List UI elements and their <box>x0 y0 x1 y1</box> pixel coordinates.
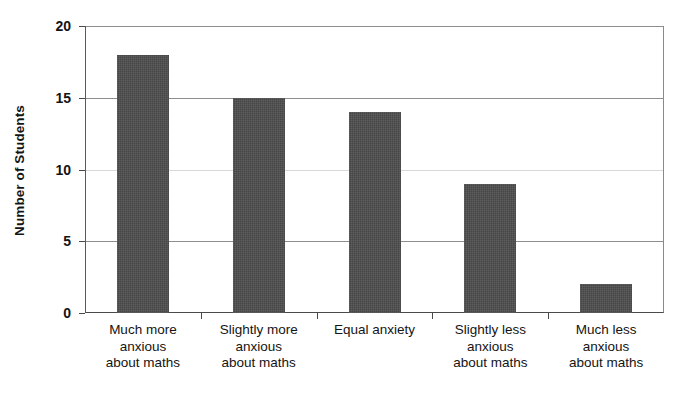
y-tick-label: 0 <box>31 305 71 321</box>
x-tick-label-line: anxious <box>86 339 200 356</box>
x-tick-label-line: anxious <box>433 339 547 356</box>
x-tick-label-line: about maths <box>86 355 200 372</box>
y-tick-mark <box>79 170 85 171</box>
y-tick-label: 15 <box>31 90 71 106</box>
x-tick-label-line: anxious <box>202 339 316 356</box>
x-tick-label-line: Much less <box>549 322 663 339</box>
gridline <box>86 241 663 242</box>
x-tick-label-line: about maths <box>202 355 316 372</box>
y-tick-mark <box>79 98 85 99</box>
x-tick-label-line: about maths <box>549 355 663 372</box>
x-tick-label-line: Slightly more <box>202 322 316 339</box>
x-tick-mark <box>201 313 202 319</box>
x-axis-labels: Much moreanxiousabout mathsSlightly more… <box>85 322 664 392</box>
bar-chart: Number of Students 05101520 Much moreanx… <box>0 0 686 402</box>
y-axis-title: Number of Students <box>4 0 34 340</box>
x-tick-label-line: Equal anxiety <box>318 322 432 339</box>
x-tick-mark <box>432 313 433 319</box>
x-tick-label: Much lessanxiousabout maths <box>548 322 664 392</box>
y-tick-mark <box>79 241 85 242</box>
x-tick-label-line: Slightly less <box>433 322 547 339</box>
x-tick-label-line: about maths <box>433 355 547 372</box>
gridline <box>86 98 663 99</box>
x-tick-mark <box>548 313 549 319</box>
y-tick-label: 5 <box>31 233 71 249</box>
y-tick-label: 20 <box>31 18 71 34</box>
x-tick-label-line: Much more <box>86 322 200 339</box>
x-tick-mark <box>317 313 318 319</box>
x-tick-label: Slightly lessanxiousabout maths <box>432 322 548 392</box>
plot-area <box>85 26 664 313</box>
x-tick-label-line: anxious <box>549 339 663 356</box>
x-tick-label: Slightly moreanxiousabout maths <box>201 322 317 392</box>
y-axis-title-text: Number of Students <box>12 105 27 236</box>
y-tick-mark <box>79 313 85 314</box>
gridline <box>86 170 663 171</box>
x-tick-label: Much moreanxiousabout maths <box>85 322 201 392</box>
gridline <box>86 26 663 27</box>
x-tick-label: Equal anxiety <box>317 322 433 392</box>
y-tick-label: 10 <box>31 162 71 178</box>
y-tick-mark <box>79 26 85 27</box>
